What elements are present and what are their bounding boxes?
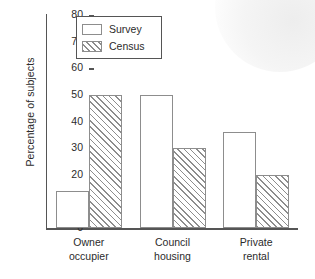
x-category-label: Owner occupier [47,236,131,263]
chart-legend: Survey Census [76,16,162,59]
x-category-label: Council housing [131,236,215,263]
bar-census-2 [256,175,289,228]
legend-entry-survey: Survey [82,21,156,37]
y-tick-label: 50 [49,88,83,100]
y-tick-label: 30 [49,141,83,153]
legend-label-census: Census [109,40,145,52]
y-axis-label: Percentage of subjects [24,27,36,197]
bar-survey-0 [56,191,89,228]
bar-census-1 [173,148,206,228]
bar-survey-1 [140,95,173,228]
grouped-bar-chart: Percentage of subjects 01020304050607080… [0,0,315,279]
hatched-box-swatch-icon [82,41,102,52]
bar-survey-2 [223,132,256,228]
y-tick-label: 40 [49,115,83,127]
y-tick-mark [89,228,94,229]
empty-box-swatch-icon [82,24,102,35]
y-tick-label: 20 [49,168,83,180]
legend-label-survey: Survey [109,23,142,35]
y-tick-mark [89,68,94,69]
legend-entry-census: Census [82,38,156,54]
x-category-label: Private rental [214,236,298,263]
y-tick-label: 60 [49,61,83,73]
x-axis-line [46,228,298,230]
bar-census-0 [89,95,122,228]
